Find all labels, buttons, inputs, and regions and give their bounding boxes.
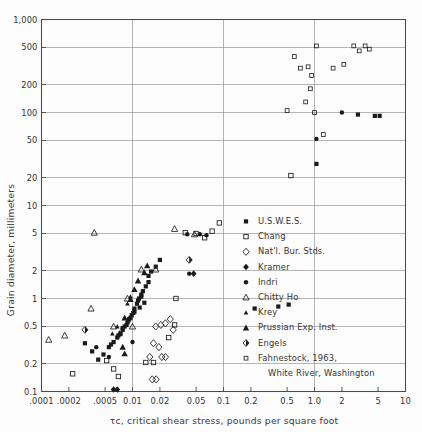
x-tick-label: .0005 bbox=[93, 396, 117, 406]
y-axis-title: Grain diameter, millimeters bbox=[5, 184, 16, 316]
x-tick-label: 0.5 bbox=[280, 396, 294, 406]
legend-entry[interactable]: White River, Washington bbox=[268, 368, 375, 378]
y-tick-label: 0.2 bbox=[24, 359, 38, 369]
data-point-filled-square bbox=[158, 258, 162, 262]
data-point-filled-circle bbox=[314, 137, 318, 141]
data-point-filled-square bbox=[314, 162, 318, 166]
legend-label: Prussian Exp. Inst. bbox=[258, 322, 338, 332]
data-point-filled-square bbox=[138, 305, 142, 309]
legend-label: Engels bbox=[258, 338, 287, 348]
data-point-filled-circle bbox=[244, 280, 248, 284]
data-point-filled-circle bbox=[198, 232, 202, 236]
y-tick-label: 500 bbox=[21, 42, 37, 52]
x-tick-label: 0.1 bbox=[217, 396, 231, 406]
data-point-filled-square bbox=[131, 311, 135, 315]
data-point-filled-square bbox=[83, 341, 87, 345]
x-tick-label: .0001 bbox=[29, 396, 53, 406]
legend-entry[interactable]: Prussian Exp. Inst. bbox=[243, 322, 338, 332]
legend-label: U.S.W.E.S. bbox=[258, 216, 302, 226]
data-point-filled-square bbox=[373, 114, 377, 118]
x-tick-label: 10 bbox=[400, 396, 411, 406]
data-point-filled-square bbox=[132, 306, 136, 310]
x-tick-label: 5 bbox=[375, 396, 380, 406]
data-point-filled-circle bbox=[107, 355, 111, 359]
data-point-filled-square bbox=[356, 112, 360, 116]
data-point-filled-square bbox=[253, 306, 257, 310]
x-tick-label: 2 bbox=[339, 396, 344, 406]
legend-label: Fahnestock, 1963, bbox=[258, 353, 337, 363]
data-point-filled-square bbox=[121, 326, 125, 330]
legend-label: Nat'l. Bur. Stds. bbox=[258, 246, 325, 256]
data-point-filled-square bbox=[139, 293, 143, 297]
scatter-chart: 0.10.20.51251020501002005001,000 .0001.0… bbox=[0, 0, 422, 432]
x-tick-label: 0.02 bbox=[150, 396, 169, 406]
x-tick-label: 1.0 bbox=[308, 396, 322, 406]
data-point-filled-square bbox=[137, 296, 141, 300]
data-point-filled-circle bbox=[340, 110, 344, 114]
data-point-filled-circle bbox=[130, 340, 134, 344]
legend-label: Indri bbox=[258, 277, 278, 287]
data-point-filled-square bbox=[146, 280, 150, 284]
y-tick-label: 1,000 bbox=[13, 15, 37, 25]
data-point-filled-square bbox=[135, 302, 139, 306]
y-tick-label: 0.5 bbox=[24, 321, 38, 331]
y-tick-label: 20 bbox=[27, 173, 38, 183]
x-axis-title: τc, critical shear stress, pounds per sq… bbox=[110, 415, 339, 426]
data-point-filled-square bbox=[142, 301, 146, 305]
y-tick-label: 10 bbox=[27, 201, 38, 211]
y-tick-label: 2 bbox=[32, 266, 37, 276]
legend-label: Krey bbox=[258, 307, 277, 317]
y-tick-label: 100 bbox=[21, 108, 37, 118]
legend-label: Kramer bbox=[258, 262, 290, 272]
legend-label: Chang bbox=[258, 231, 286, 241]
legend-entry[interactable]: Fahnestock, 1963, bbox=[244, 353, 337, 363]
data-point-filled-circle bbox=[187, 271, 191, 275]
y-tick-label: 200 bbox=[21, 80, 37, 90]
legend-label: Chitty Ho bbox=[258, 292, 298, 302]
data-point-filled-circle bbox=[94, 345, 98, 349]
data-point-filled-square bbox=[144, 284, 148, 288]
x-tick-label: 0.05 bbox=[187, 396, 206, 406]
data-point-filled-square bbox=[96, 358, 100, 362]
data-point-filled-square bbox=[244, 219, 248, 223]
legend-label: White River, Washington bbox=[268, 368, 375, 378]
y-tick-label: 5 bbox=[32, 228, 37, 238]
y-tick-label: 1 bbox=[32, 294, 37, 304]
data-point-filled-square bbox=[378, 114, 382, 118]
x-tick-label: 0.01 bbox=[123, 396, 142, 406]
data-point-filled-circle bbox=[204, 233, 208, 237]
data-point-filled-square bbox=[90, 349, 94, 353]
data-point-filled-square bbox=[101, 352, 105, 356]
y-tick-label: 50 bbox=[27, 135, 38, 145]
x-tick-label: .0002 bbox=[57, 396, 81, 406]
data-point-filled-square bbox=[287, 302, 291, 306]
data-point-filled-circle bbox=[185, 232, 189, 236]
data-point-filled-square bbox=[124, 323, 128, 327]
chart-figure: 0.10.20.51251020501002005001,000 .0001.0… bbox=[0, 0, 422, 432]
x-tick-label: 0.2 bbox=[244, 396, 258, 406]
data-point-filled-square bbox=[109, 342, 113, 346]
